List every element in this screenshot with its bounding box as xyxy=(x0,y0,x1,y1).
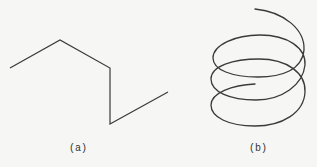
figure-canvas xyxy=(0,0,317,167)
helix-b xyxy=(211,9,305,126)
polyline-a xyxy=(10,40,168,124)
caption-b: (b) xyxy=(249,143,267,154)
caption-a: (a) xyxy=(69,143,87,154)
